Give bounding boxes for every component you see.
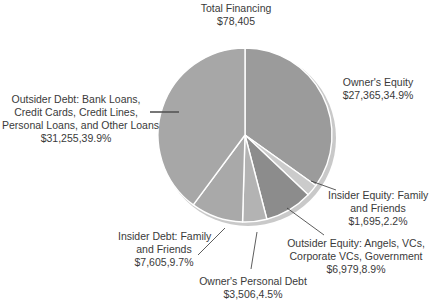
- outsider-debt-value: $31,255,39.9%: [2, 132, 150, 145]
- insider-debt-line2: and Friends: [118, 243, 210, 256]
- owners-personal-debt-value: $3,506,4.5%: [198, 288, 308, 301]
- insider-debt-value: $7,605,9.7%: [118, 256, 210, 269]
- pie-slices: [158, 48, 332, 222]
- leader-outsider-equity: [287, 208, 324, 235]
- label-outsider-equity: Outsider Equity: Angels, VCs, Corporate …: [284, 237, 428, 276]
- label-owners-equity: Owner's Equity $27,365,34.9%: [333, 76, 423, 102]
- label-total-financing: Total Financing $78,405: [196, 2, 276, 28]
- outsider-debt-line3: Personal Loans, and Other Loans: [2, 119, 150, 132]
- label-owners-personal-debt: Owner's Personal Debt $3,506,4.5%: [198, 275, 308, 301]
- outsider-equity-line1: Outsider Equity: Angels, VCs,: [284, 237, 428, 250]
- total-value: $78,405: [196, 15, 276, 28]
- outsider-debt-line1: Outsider Debt: Bank Loans,: [2, 93, 150, 106]
- label-insider-debt: Insider Debt: Family and Friends $7,605,…: [118, 230, 210, 269]
- insider-equity-line1: Insider Equity: Family: [328, 189, 428, 202]
- label-outsider-debt: Outsider Debt: Bank Loans, Credit Cards,…: [2, 93, 150, 145]
- insider-equity-value: $1,695,2.2%: [328, 215, 428, 228]
- outsider-debt-line2: Credit Cards, Credit Lines,: [2, 106, 150, 119]
- owners-equity-value: $27,365,34.9%: [333, 89, 423, 102]
- insider-equity-line2: and Friends: [328, 202, 428, 215]
- owners-personal-debt-name: Owner's Personal Debt: [198, 275, 308, 288]
- outsider-equity-line2: Corporate VCs, Government: [284, 250, 428, 263]
- owners-equity-name: Owner's Equity: [333, 76, 423, 89]
- label-insider-equity: Insider Equity: Family and Friends $1,69…: [328, 189, 428, 228]
- leader-owners-personal-debt: [251, 232, 257, 269]
- insider-debt-line1: Insider Debt: Family: [118, 230, 210, 243]
- title-text: Total Financing: [196, 2, 276, 15]
